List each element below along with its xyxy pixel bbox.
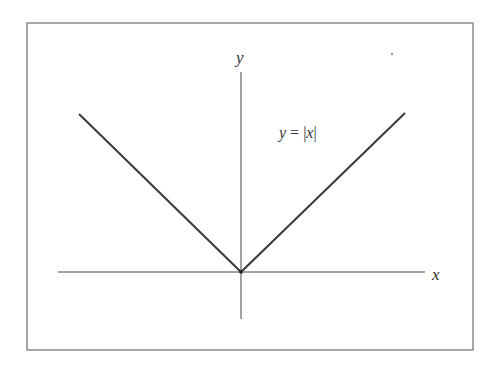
- y-axis-label: y: [234, 48, 244, 67]
- graph-figure: y x y = |x|: [0, 0, 490, 375]
- stray-dot: [391, 53, 393, 55]
- origin-point: [239, 270, 243, 274]
- abs-value-curve: [79, 113, 405, 272]
- x-axis-label: x: [431, 265, 440, 284]
- equation-label: y = |x|: [277, 124, 317, 142]
- figure-frame: [27, 23, 473, 350]
